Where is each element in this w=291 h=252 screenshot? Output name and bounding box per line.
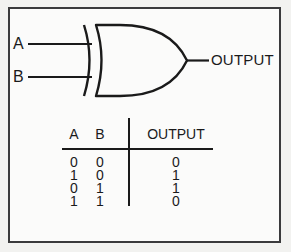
table-header-b: B	[92, 126, 108, 142]
input-label-b: B	[13, 68, 24, 86]
xor-gate-figure: A B OUTPUT A B OUTPUT 0 0 0 1 0 1 0 1 1 …	[0, 0, 291, 252]
table-header-rule	[62, 148, 213, 150]
xor-extra-arc	[84, 25, 90, 96]
table-row: 1	[92, 193, 108, 209]
output-label: OUTPUT	[211, 51, 274, 68]
input-label-a: A	[13, 35, 24, 53]
table-header-output: OUTPUT	[140, 126, 212, 142]
table-vertical-divider	[128, 118, 130, 206]
gate-diagram: A B OUTPUT	[0, 0, 291, 115]
or-gate-body	[96, 25, 187, 96]
table-row: 0	[140, 193, 212, 209]
truth-table: A B OUTPUT 0 0 0 1 0 1 0 1 1 1 1 0	[0, 112, 291, 212]
table-row: 1	[66, 193, 82, 209]
table-header-a: A	[66, 126, 82, 142]
